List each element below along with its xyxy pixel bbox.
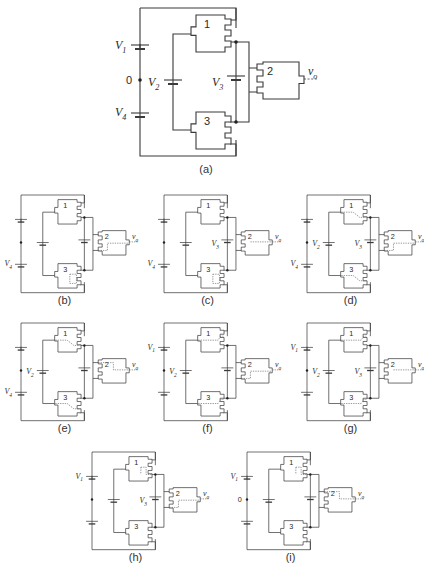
gate-1: 1 (198, 200, 224, 224)
v3-wire (366, 345, 379, 398)
v2-wire (329, 340, 342, 403)
node-top (154, 473, 156, 475)
gate-1-label: 1 (63, 201, 67, 210)
v2-wire (329, 212, 342, 275)
output-label-vo-sub: o (313, 72, 317, 81)
node-bottom (83, 397, 85, 399)
gate-2: 2 (249, 62, 304, 99)
gate-2: 2 (236, 359, 272, 383)
label-v3-sub: 3 (143, 501, 147, 507)
v3-wire (223, 345, 236, 398)
gate-2: 2 (164, 488, 200, 512)
node-top (83, 216, 85, 218)
output-label-vo-sub: o (135, 237, 138, 243)
gate-3-label: 3 (349, 265, 353, 274)
gate-3-label: 3 (206, 393, 210, 402)
gate-2-label: 2 (267, 65, 273, 77)
gate-1: 1 (126, 457, 152, 481)
node-bottom (234, 120, 238, 124)
label-v2-sub: 2 (155, 83, 159, 92)
gate-1: 1 (341, 328, 367, 352)
output-label-vo: vo (418, 232, 424, 242)
midpoint-node (91, 498, 93, 500)
label-v3: V3 (212, 239, 220, 249)
midpoint-node (306, 369, 308, 371)
circuit-figure: 132voV1V4V2V30(a)132voV4(b)132voV4V3(c)1… (0, 0, 424, 572)
panel-caption-a: (a) (199, 163, 212, 175)
v2-wire (186, 340, 199, 403)
gate-1-label: 1 (349, 329, 353, 338)
gate-3-label: 3 (134, 522, 138, 531)
gate-1-label: 1 (204, 18, 210, 30)
panel-caption-e: (e) (58, 422, 71, 434)
panel-d: 132voV4V2V3 (291, 195, 424, 293)
v2-wire (269, 469, 282, 532)
v2-wire (114, 469, 127, 532)
gate-2-label: 2 (391, 232, 395, 241)
label-v4-sub: 4 (9, 392, 12, 398)
gate-3: 3 (281, 521, 307, 545)
output-label-vo: vo (132, 232, 139, 242)
label-v4: V4 (4, 387, 12, 397)
gate-3-label: 3 (349, 393, 353, 402)
label-v3: V3 (140, 496, 148, 506)
label-v1-sub: 1 (152, 347, 155, 353)
output-label-vo: vo (132, 360, 139, 370)
output-label-vo: vo (275, 232, 282, 242)
midpoint-node (163, 369, 165, 371)
label-v4: V4 (148, 259, 156, 269)
label-v4: V4 (115, 105, 126, 122)
midpoint-node (163, 241, 165, 243)
label-v4-sub: 4 (152, 264, 155, 270)
label-v1: V1 (231, 472, 239, 482)
label-v2: V2 (169, 367, 177, 377)
gate-3: 3 (198, 392, 224, 416)
label-v2-sub: 2 (31, 372, 34, 378)
gate-3: 3 (191, 112, 231, 149)
gate-2-label: 2 (105, 360, 109, 369)
v2-wire (173, 34, 192, 130)
node-bottom (154, 526, 156, 528)
panel-b: 132voV4 (4, 195, 138, 293)
output-label-vo: vo (275, 360, 282, 370)
label-v1: V1 (115, 38, 126, 55)
gate-3: 3 (55, 264, 81, 288)
node-bottom (369, 397, 371, 399)
gate-1: 1 (281, 457, 307, 481)
label-v1: V1 (148, 343, 156, 353)
gate-1: 1 (198, 328, 224, 352)
node-top (369, 344, 371, 346)
gate-3: 3 (126, 521, 152, 545)
gate-2: 2 (93, 231, 129, 255)
label-v4-sub: 4 (122, 113, 126, 122)
panel-c: 132voV4V3 (148, 195, 282, 293)
panel-caption-h: (h) (129, 551, 142, 563)
label-v3-sub: 3 (358, 244, 362, 250)
output-label-vo-sub: o (278, 237, 281, 243)
panel-caption-i: (i) (286, 551, 296, 563)
label-v1-sub: 1 (80, 476, 83, 482)
panel-caption-b: (b) (58, 294, 71, 306)
gate-2: 2 (379, 231, 415, 255)
label-v3: V3 (212, 75, 223, 92)
gate-1: 1 (191, 15, 231, 52)
output-label-vo: vo (203, 489, 210, 499)
gate-2: 2 (379, 359, 415, 383)
label-v1-sub: 1 (122, 46, 126, 55)
panel-caption-d: (d) (344, 294, 357, 306)
label-v2: V2 (26, 367, 34, 377)
gate-3: 3 (198, 264, 224, 288)
node-top (309, 473, 311, 475)
label-v2: V2 (148, 75, 159, 92)
gate-3-label: 3 (289, 522, 293, 531)
label-v2: V2 (312, 367, 320, 377)
v2-wire (186, 212, 199, 275)
label-v3: V3 (355, 239, 363, 249)
output-label-vo: vo (358, 489, 365, 499)
node-bottom (226, 397, 228, 399)
node-top (226, 216, 228, 218)
midpoint-node (246, 498, 248, 500)
panel-f: 132voV1V2 (148, 323, 282, 421)
label-v1-sub: 1 (235, 476, 238, 482)
gate-2: 2 (236, 231, 272, 255)
